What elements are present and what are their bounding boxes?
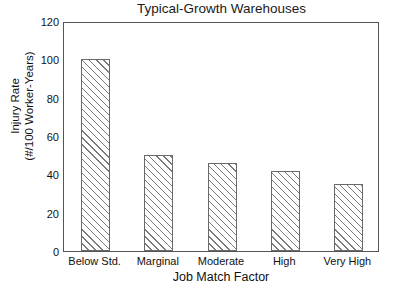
y-axis-tick-label: 60 <box>20 132 59 143</box>
bars-layer <box>64 23 378 251</box>
y-axis-tick-label: 0 <box>20 247 59 258</box>
x-axis-tick-label: Below Std. <box>68 255 121 268</box>
y-axis-tick-label: 100 <box>20 55 59 66</box>
bar-high <box>271 171 300 252</box>
x-axis-label: Job Match Factor <box>63 270 379 285</box>
x-axis-tick-label: Moderate <box>198 255 244 268</box>
bar-moderate <box>208 163 237 251</box>
chart-title: Typical-Growth Warehouses <box>63 1 380 17</box>
y-axis-tick-label: 20 <box>20 208 59 219</box>
plot-area <box>63 22 379 252</box>
x-axis-tick-label: Very High <box>324 255 372 268</box>
x-axis-tick-label: Marginal <box>137 255 179 268</box>
x-axis-tick-label: High <box>273 255 296 268</box>
y-axis-tick-labels: 020406080100120 <box>20 0 59 286</box>
y-axis-tick-label: 120 <box>20 17 59 28</box>
y-axis-tick-label: 80 <box>20 93 59 104</box>
bar-below-std <box>81 59 110 251</box>
bar-very-high <box>334 184 363 251</box>
bar-chart-figure: Typical-Growth Warehouses Injury Rate (#… <box>0 0 395 286</box>
y-axis-tick-label: 40 <box>20 170 59 181</box>
bar-marginal <box>144 155 173 251</box>
x-axis-tick-labels: Below Std.MarginalModerateHighVery High <box>63 255 379 269</box>
